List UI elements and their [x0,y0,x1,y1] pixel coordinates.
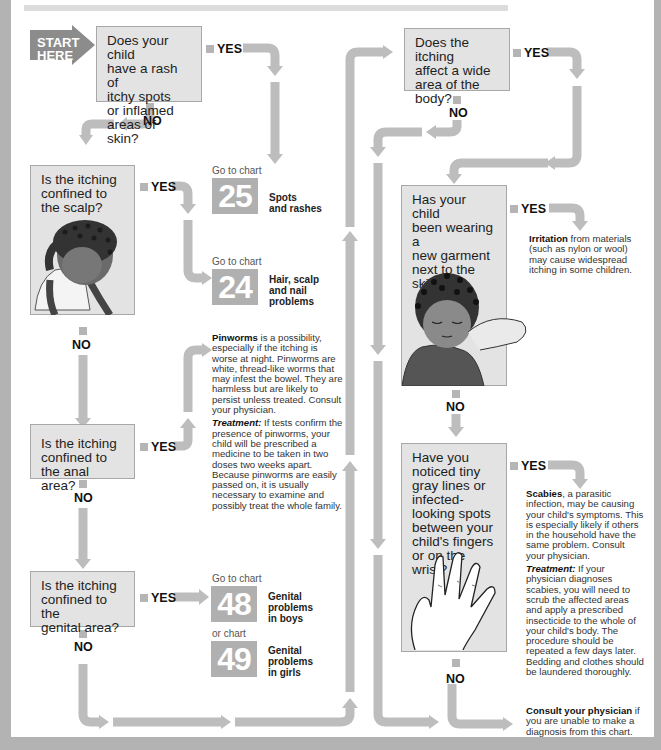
goto-chart-48-prefix: Go to chart [212,573,261,584]
arrow-q7-no [452,684,513,731]
question-box-genital-area: Is the itching confined to the genital a… [30,571,135,627]
hand-illustration [405,545,505,650]
pinworms-info: Pinworms is a possibility, especially if… [212,333,344,514]
arrow-q5-no [370,120,457,157]
goto-chart-25-prefix: Go to chart [212,165,261,176]
yes-label-q2: YES [140,180,176,194]
arrow-q2-no [75,355,91,428]
child-scratching-head-illustration [30,210,135,315]
question-box-anal-area: Is the itching confined to the anal area… [30,424,135,479]
goto-chart-49-prefix: or chart [212,628,246,639]
arrow-q7-yes [548,465,588,489]
no-label-q5: NO [449,106,468,120]
chart-25-tile[interactable]: 25 [212,178,258,214]
goto-chart-24-prefix: Go to chart [212,256,261,267]
arrow-q2-yes [172,186,212,285]
no-label-q2: NO [72,338,91,352]
yes-label-q1: YES [206,42,242,56]
no-label-q7: NO [446,672,465,686]
chart-48-description: Genitalproblemsin boys [268,591,313,624]
no-label-q1: NO [143,114,162,128]
chart-24-tile[interactable]: 24 [212,269,258,305]
no-label-q3: NO [74,491,93,505]
yes-label-q5: YES [513,46,549,60]
start-here-label: START HERE [37,36,79,62]
no-label-q4: NO [74,640,93,654]
irritation-info: Irritation from materials (such as nylon… [529,234,644,278]
arrow-q3-yes [174,343,212,446]
question-box-rash: Does your child have a rash of itchy spo… [96,26,202,102]
arrow-q6-yes [549,208,588,231]
arrow-q4-yes [174,589,209,605]
chart-48-tile[interactable]: 48 [211,586,257,622]
yes-label-q7: YES [510,459,546,473]
no-connector-q7 [452,659,460,667]
arrow-q6-no [448,414,464,437]
yes-label-q6: YES [510,202,546,216]
no-connector-q2 [79,327,87,335]
scabies-info: Scabies, a parasitic infection, may be c… [526,489,644,680]
chart-24-description: Hair, scalpand nailproblems [269,274,319,307]
arrow-q3-no [75,508,91,569]
child-touching-neck-illustration [402,262,536,386]
arrow-q1-yes [243,48,283,164]
question-box-wide-area: Does the itching affect a wide area of t… [404,28,510,91]
no-label-q6: NO [446,400,465,414]
yes-label-q3: YES [140,440,176,454]
yes-label-q4: YES [140,591,176,605]
chart-49-description: Genitalproblemsin girls [268,645,313,678]
chart-49-tile[interactable]: 49 [211,641,257,677]
arrow-loop-up-to-q5 [342,45,393,692]
consult-physician-info: Consult your physician if you are unable… [526,706,646,740]
no-connector-q6 [452,390,460,398]
chart-25-description: Spotsand rashes [269,192,322,214]
